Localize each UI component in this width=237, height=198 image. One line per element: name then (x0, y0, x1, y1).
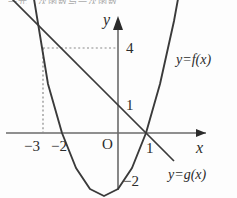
y-axis-arrow (113, 16, 123, 30)
origin-label: O (102, 137, 113, 152)
curve-label-g: y=g(x) (168, 168, 206, 182)
y-tick-1: 1 (126, 98, 134, 113)
y-axis-label: y (103, 12, 110, 28)
curve-parabola-f (28, 0, 185, 196)
x-axis-label: x (196, 140, 203, 156)
y-tick-4: 4 (126, 41, 134, 56)
x-tick-minus-3: −3 (24, 139, 40, 154)
curve-line-g (6, 0, 174, 161)
figure-canvas: 一元二次函数与一次函数 y x O 4 1 −2 −3 −2 1 y=f(x) … (0, 0, 237, 198)
x-axis-arrow (196, 129, 206, 137)
y-tick-minus-2: −2 (123, 174, 139, 189)
x-tick-1: 1 (146, 141, 154, 156)
x-tick-minus-2: −2 (51, 139, 67, 154)
curve-label-f: y=f(x) (176, 53, 211, 67)
